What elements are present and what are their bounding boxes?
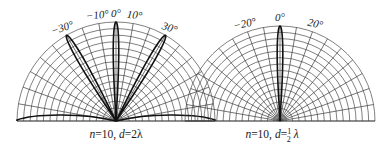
angle-label: −10° (85, 7, 110, 21)
polar-plot-right: −20°0°20° n=10, d=12λ (185, 11, 375, 144)
antenna-array-pattern-figure: −30°−10°0°10°30° n=10, d=2λ −20°0°20° n=… (0, 0, 391, 152)
angle-label: 20° (307, 16, 325, 31)
angle-label: −20° (232, 15, 257, 32)
angle-label: 30° (160, 19, 180, 36)
angle-label: −30° (49, 18, 75, 37)
angle-label: 0° (275, 11, 286, 23)
polar-plots-canvas: −30°−10°0°10°30° n=10, d=2λ −20°0°20° n=… (0, 0, 391, 152)
angle-label: 10° (126, 8, 143, 22)
polar-grid-right (185, 26, 375, 121)
caption-left: n=10, d=2λ (89, 128, 142, 141)
angle-label: 0° (111, 7, 122, 19)
caption-right: n=10, d=12λ (245, 127, 298, 144)
